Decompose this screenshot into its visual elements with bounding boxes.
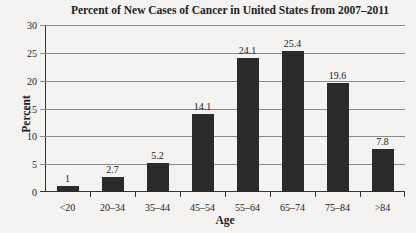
bar-value-label: 2.7 <box>93 164 133 175</box>
x-tick-label: 65–74 <box>270 202 315 213</box>
bar-value-label: 24.1 <box>228 45 268 56</box>
gridline <box>40 25 405 26</box>
x-tick-mark <box>270 192 271 197</box>
x-tick-label: 75–84 <box>315 202 360 213</box>
bar <box>192 114 214 192</box>
y-axis-label: Percent <box>20 84 32 144</box>
y-tick-label: 30 <box>7 20 37 31</box>
bar <box>57 186 79 192</box>
chart-title: Percent of New Cases of Cancer in United… <box>0 4 416 16</box>
x-tick-label: 20–34 <box>90 202 135 213</box>
gridline <box>40 53 405 54</box>
bar <box>102 177 124 192</box>
bar-value-label: 7.8 <box>363 136 403 147</box>
bar-value-label: 5.2 <box>138 150 178 161</box>
bar-value-label: 25.4 <box>273 38 313 49</box>
y-tick-label: 0 <box>7 187 37 198</box>
bar-value-label: 14.1 <box>183 101 223 112</box>
x-tick-mark <box>225 192 226 197</box>
bar <box>237 58 259 192</box>
x-axis <box>40 191 405 192</box>
bar <box>282 51 304 192</box>
x-tick-mark <box>315 192 316 197</box>
x-tick-mark <box>404 192 405 197</box>
x-tick-mark <box>90 192 91 197</box>
x-tick-label: 35–44 <box>135 202 180 213</box>
x-axis-label: Age <box>205 214 245 226</box>
x-tick-mark <box>135 192 136 197</box>
bar <box>147 163 169 192</box>
x-tick-label: >84 <box>360 202 405 213</box>
y-tick-label: 5 <box>7 159 37 170</box>
gridline <box>40 136 405 137</box>
bar-value-label: 19.6 <box>318 70 358 81</box>
y-tick-label: 25 <box>7 47 37 58</box>
plot-area: 0510152025301<202.720–345.235–4414.145–5… <box>45 25 405 192</box>
x-tick-label: 45–54 <box>180 202 225 213</box>
x-tick-mark <box>180 192 181 197</box>
bar-value-label: 1 <box>48 173 88 184</box>
bar <box>327 83 349 192</box>
x-tick-mark <box>360 192 361 197</box>
bar <box>372 149 394 192</box>
x-tick-label: 55–64 <box>225 202 270 213</box>
gridline <box>40 109 405 110</box>
x-tick-label: <20 <box>45 202 90 213</box>
